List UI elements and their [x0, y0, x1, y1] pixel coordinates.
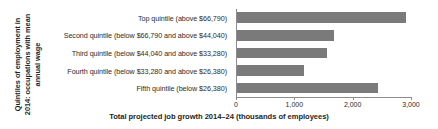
category-label-fourth-quintile: Fourth quintile (below $33,280 and above…: [67, 66, 227, 75]
table-row: [236, 44, 411, 62]
category-label-top-quintile: Top quintile (above $66,790): [138, 13, 227, 22]
table-row: [236, 62, 411, 80]
plot-area: 0 1,000 2,000 3,000: [236, 9, 411, 97]
bar-third-quintile: [237, 48, 327, 59]
x-tick-mark-3: [411, 97, 412, 100]
x-tick-mark-0: [236, 97, 237, 100]
category-label-second-quintile: Second quintile (below $66,790 and above…: [64, 31, 227, 40]
category-labels: Top quintile (above $66,790) Second quin…: [0, 9, 232, 97]
table-row: [236, 9, 411, 27]
x-tick-label-3: 3,000: [402, 101, 420, 108]
x-tick-label-0: 0: [234, 101, 238, 108]
x-tick-mark-1: [294, 97, 295, 100]
x-axis-line: [236, 97, 411, 98]
bar-chart-figure: Quintiles of employment in 2014: occupat…: [0, 0, 438, 129]
bar-top-quintile: [237, 12, 406, 23]
x-tick-label-1: 1,000: [286, 101, 304, 108]
bar-fourth-quintile: [237, 65, 304, 76]
x-tick-label-2: 2,000: [344, 101, 362, 108]
table-row: [236, 79, 411, 97]
table-row: [236, 27, 411, 45]
category-label-fifth-quintile: Fifth quintile (below $26,380): [137, 84, 228, 93]
bar-second-quintile: [237, 30, 334, 41]
bar-fifth-quintile: [237, 83, 378, 94]
x-axis-title: Total projected job growth 2014–24 (thou…: [0, 112, 438, 121]
category-label-third-quintile: Third quintile (below $44,040 and above …: [72, 49, 227, 58]
x-tick-mark-2: [353, 97, 354, 100]
